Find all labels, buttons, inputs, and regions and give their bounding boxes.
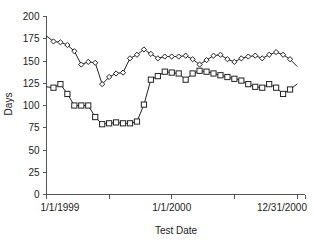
data-point-square <box>287 87 292 92</box>
x-axis-group: 1/1/19991/1/200012/31/2000 <box>41 195 308 213</box>
data-point-square <box>79 103 84 108</box>
y-axis-tick-labels: 0255075100125150175200 <box>23 11 40 200</box>
data-point-diamond <box>280 52 285 57</box>
data-point-diamond <box>86 59 91 64</box>
y-tick-label: 150 <box>23 56 40 67</box>
y-axis-ticks <box>43 17 47 195</box>
data-point-square <box>155 74 160 79</box>
x-axis-ticks <box>47 195 306 199</box>
data-point-square <box>176 71 181 76</box>
data-point-square <box>65 91 70 96</box>
data-point-diamond <box>148 51 153 56</box>
data-point-diamond <box>232 59 237 64</box>
data-point-diamond <box>58 40 63 45</box>
y-tick-label: 50 <box>28 145 40 156</box>
y-tick-label: 175 <box>23 33 40 44</box>
data-point-diamond <box>253 53 258 58</box>
data-point-diamond <box>211 53 216 58</box>
data-point-square <box>127 121 132 126</box>
data-point-square <box>100 122 105 127</box>
data-point-square <box>162 69 167 74</box>
plot-series-group <box>47 36 298 127</box>
data-point-square <box>267 82 272 87</box>
data-point-square <box>218 73 223 78</box>
data-point-square <box>169 70 174 75</box>
data-point-square <box>58 82 63 87</box>
series-lower-series <box>47 68 298 127</box>
series-line <box>47 36 298 84</box>
data-point-diamond <box>218 52 223 57</box>
data-point-square <box>260 85 265 90</box>
data-point-square <box>134 119 139 124</box>
data-point-diamond <box>127 56 132 61</box>
y-tick-label: 200 <box>23 11 40 22</box>
series-upper-series <box>47 36 298 87</box>
data-point-square <box>197 68 202 73</box>
data-point-square <box>204 69 209 74</box>
data-point-square <box>93 114 98 119</box>
y-tick-label: 25 <box>28 167 40 178</box>
data-point-square <box>113 120 118 125</box>
data-point-diamond <box>225 57 230 62</box>
data-point-diamond <box>204 58 209 63</box>
data-point-square <box>120 121 125 126</box>
data-point-square <box>51 85 56 90</box>
data-point-diamond <box>113 71 118 76</box>
data-point-diamond <box>267 52 272 57</box>
data-point-square <box>183 77 188 82</box>
data-point-square <box>274 85 279 90</box>
data-point-diamond <box>162 54 167 59</box>
chart-container: 0255075100125150175200 1/1/19991/1/20001… <box>0 0 314 242</box>
data-point-square <box>72 103 77 108</box>
data-point-diamond <box>274 50 279 55</box>
series-line <box>47 71 298 124</box>
x-axis-title: Test Date <box>155 225 198 236</box>
x-tick-label: 1/1/1999 <box>41 202 80 213</box>
data-point-square <box>246 82 251 87</box>
data-point-square <box>232 76 237 81</box>
data-point-square <box>107 121 112 126</box>
x-tick-label: 1/1/2000 <box>152 202 191 213</box>
data-point-diamond <box>239 56 244 61</box>
data-point-diamond <box>93 60 98 65</box>
y-axis-group: 0255075100125150175200 <box>23 11 47 200</box>
data-point-diamond <box>260 56 265 61</box>
data-point-diamond <box>176 54 181 59</box>
data-point-diamond <box>183 53 188 58</box>
data-point-square <box>190 71 195 76</box>
data-point-diamond <box>169 54 174 59</box>
x-tick-label: 12/31/2000 <box>257 202 307 213</box>
data-point-diamond <box>246 54 251 59</box>
y-axis-title: Days <box>3 93 14 116</box>
data-point-square <box>148 77 153 82</box>
y-tick-label: 75 <box>28 122 40 133</box>
data-point-square <box>280 91 285 96</box>
y-tick-label: 0 <box>34 189 40 200</box>
x-axis-tick-labels: 1/1/19991/1/200012/31/2000 <box>41 202 308 213</box>
data-point-square <box>225 74 230 79</box>
data-point-square <box>253 84 258 89</box>
data-point-diamond <box>155 56 160 61</box>
y-tick-label: 125 <box>23 78 40 89</box>
data-point-square <box>211 71 216 76</box>
data-point-diamond <box>120 70 125 75</box>
data-point-square <box>141 102 146 107</box>
data-point-square <box>239 78 244 83</box>
data-point-square <box>86 103 91 108</box>
data-point-diamond <box>79 62 84 67</box>
line-chart: 0255075100125150175200 1/1/19991/1/20001… <box>0 0 314 242</box>
y-tick-label: 100 <box>23 100 40 111</box>
